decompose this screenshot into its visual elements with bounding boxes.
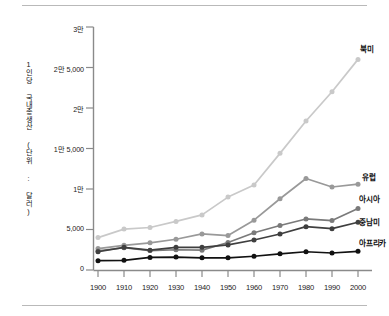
data-point	[174, 245, 179, 250]
series-아프리카	[96, 249, 361, 263]
y-axis-ticks	[86, 27, 94, 270]
data-point	[304, 249, 309, 254]
chart-figure: 1인당 국내총생산 (단위 : 달러) 3만 2만 5,000 2만 1만 5,…	[0, 0, 389, 316]
data-point	[174, 219, 179, 224]
data-point	[304, 118, 309, 123]
data-point	[304, 216, 309, 221]
data-point	[200, 245, 205, 250]
data-point	[96, 235, 101, 240]
data-point	[174, 255, 179, 260]
data-point	[278, 196, 283, 201]
series-lines-layer	[96, 57, 361, 263]
data-point	[252, 230, 257, 235]
axis-lines	[94, 27, 373, 271]
data-point	[122, 245, 127, 250]
data-point	[356, 57, 361, 62]
data-point	[252, 238, 257, 243]
data-point	[252, 218, 257, 223]
data-point	[226, 255, 231, 260]
data-point	[330, 250, 335, 255]
data-point	[122, 258, 127, 263]
data-point	[304, 176, 309, 181]
data-point	[278, 151, 283, 156]
data-point	[96, 249, 101, 254]
data-point	[226, 195, 231, 200]
data-point	[356, 220, 361, 225]
data-point	[278, 251, 283, 256]
data-point	[148, 255, 153, 260]
data-point	[148, 240, 153, 245]
data-point	[252, 182, 257, 187]
data-point	[330, 226, 335, 231]
data-point	[148, 225, 153, 230]
data-point	[226, 233, 231, 238]
data-point	[122, 227, 127, 232]
data-point	[148, 248, 153, 253]
data-point	[356, 206, 361, 211]
data-point	[226, 242, 231, 247]
data-point	[252, 254, 257, 259]
data-point	[356, 182, 361, 187]
data-point	[330, 184, 335, 189]
series-북미	[96, 57, 361, 240]
data-point	[174, 237, 179, 242]
data-point	[278, 231, 283, 236]
series-유럽	[96, 176, 361, 251]
data-point	[356, 249, 361, 254]
data-point	[96, 258, 101, 263]
data-point	[304, 224, 309, 229]
data-point	[200, 255, 205, 260]
x-axis-ticks	[98, 271, 358, 278]
data-point	[330, 218, 335, 223]
data-point	[278, 223, 283, 228]
chart-plot-area	[0, 0, 389, 316]
data-point	[330, 89, 335, 94]
data-point	[200, 212, 205, 217]
data-point	[200, 231, 205, 236]
